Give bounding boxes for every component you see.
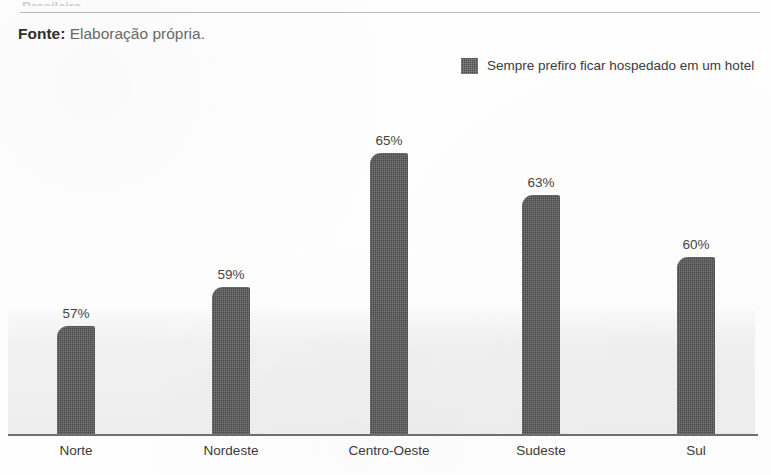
x-axis-tick-label: Sul xyxy=(621,442,771,460)
horizontal-rule xyxy=(20,12,760,13)
bar xyxy=(212,287,250,434)
bar-value-label: 59% xyxy=(196,267,266,283)
bar-group: 60% xyxy=(677,257,715,434)
bar-group: 63% xyxy=(522,195,560,434)
bar-value-label: 57% xyxy=(41,306,111,322)
source-caption: Fonte: Elaboração própria. xyxy=(18,24,205,44)
caption-value: Elaboração própria. xyxy=(70,25,205,42)
chart-legend: Sempre prefiro ficar hospedado em um hot… xyxy=(461,58,754,74)
bar-series-layer: 57%59%65%63%60% xyxy=(0,85,771,475)
bar-group: 59% xyxy=(212,287,250,434)
bar xyxy=(522,195,560,434)
bar xyxy=(677,257,715,434)
x-axis-tick-label: Norte xyxy=(1,442,151,460)
x-axis-tick-label: Sudeste xyxy=(466,442,616,460)
cropped-heading-text: Brasileira xyxy=(22,0,172,6)
bar-value-label: 63% xyxy=(506,175,576,191)
bar xyxy=(57,326,95,434)
legend-item-label: Sempre prefiro ficar hospedado em um hot… xyxy=(487,58,754,74)
x-axis-tick-label: Nordeste xyxy=(156,442,306,460)
bar xyxy=(370,153,408,434)
x-axis-tick-label: Centro-Oeste xyxy=(314,442,464,460)
bar-value-label: 65% xyxy=(354,133,424,149)
bar-group: 65% xyxy=(370,153,408,434)
bar-chart: 57%59%65%63%60% NorteNordesteCentro-Oest… xyxy=(0,85,771,475)
document-page: Brasileira Fonte: Elaboração própria. Se… xyxy=(0,0,771,475)
bar-group: 57% xyxy=(57,326,95,434)
legend-swatch-icon xyxy=(461,58,478,74)
bar-value-label: 60% xyxy=(661,237,731,253)
caption-label: Fonte: xyxy=(18,25,65,42)
